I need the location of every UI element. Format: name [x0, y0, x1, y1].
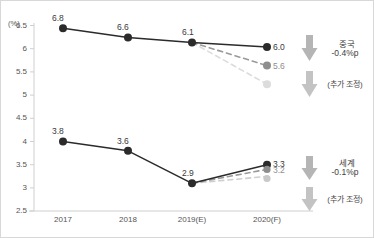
- china-point-2018: [124, 34, 132, 42]
- x-tick-label-2020: 2020(F): [235, 215, 299, 224]
- y-tick-label-3: 3: [1, 183, 27, 192]
- world-point-2017: [59, 138, 67, 146]
- china-value-label-2018: 6.6: [117, 22, 129, 32]
- y-tick-label-4: 4: [1, 137, 27, 146]
- china-point-2020-adjusted: [263, 62, 271, 70]
- china-annotation-delta: -0.4%p: [319, 48, 371, 58]
- china-value-label-2019: 6.1: [182, 27, 194, 37]
- y-tick-label-6: 6: [1, 44, 27, 53]
- y-tick-label-5: 5: [1, 90, 27, 99]
- china-baseline-line: [63, 28, 267, 47]
- china-further-adjusted-line: [192, 42, 267, 84]
- x-tick-label-2018: 2018: [98, 215, 158, 224]
- world-down-arrow-icon: [302, 156, 318, 180]
- y-tick-label-2.5: 2.5: [1, 206, 27, 215]
- china-point-2017: [59, 24, 67, 32]
- china-point-2019: [188, 38, 196, 46]
- china-value-label-2017: 6.8: [52, 13, 64, 23]
- china-point-2020: [263, 43, 271, 51]
- world-point-2020-further-adjusted: [263, 175, 270, 182]
- china-annotation-note: (추가 조정): [317, 78, 373, 89]
- china-value-label-2020-adjusted: 5.6: [273, 61, 285, 71]
- world-baseline-line: [63, 142, 267, 184]
- world-annotation-delta: -0.1%p: [319, 167, 371, 177]
- china-value-label-2020: 6.0: [273, 42, 285, 52]
- x-tick-label-2019: 2019(E): [160, 215, 224, 224]
- world-annotation-note: (추가 조정): [317, 193, 373, 204]
- world-value-label-2019: 2.9: [182, 168, 194, 178]
- world-extra-down-arrow-icon: [302, 187, 318, 211]
- world-point-2018: [124, 147, 132, 155]
- y-tick-label-3.5: 3.5: [1, 160, 27, 169]
- world-value-label-2020-adjusted: 3.2: [273, 165, 285, 175]
- y-axis-ticks: [30, 26, 34, 212]
- world-value-label-2017: 3.8: [52, 126, 64, 136]
- china-extra-down-arrow-icon: [302, 71, 318, 97]
- china-point-2020-further-adjusted: [263, 80, 271, 88]
- world-value-label-2018: 3.6: [117, 136, 129, 146]
- world-point-2020-adjusted: [263, 166, 270, 173]
- x-tick-label-2017: 2017: [33, 215, 93, 224]
- china-down-arrow-icon: [302, 35, 318, 61]
- y-tick-label-5.5: 5.5: [1, 67, 27, 76]
- y-tick-label-4.5: 4.5: [1, 113, 27, 122]
- y-tick-label-6.5: 6.5: [1, 21, 27, 30]
- world-point-2019: [188, 179, 196, 187]
- chart-screenshot: (%) 6.5 6 5.5 5 4.5 4 3.5 3 2.5 2017 201…: [0, 0, 374, 238]
